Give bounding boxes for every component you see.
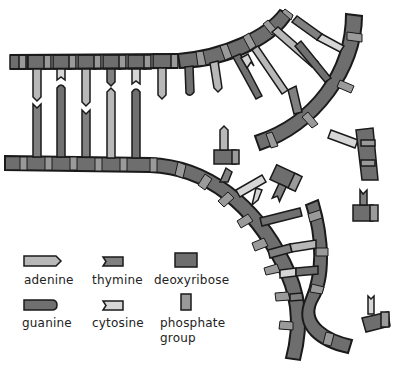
legend-guanine-icon [24, 300, 57, 310]
legend-adenine-icon [24, 256, 61, 266]
legend-label-phosphate-group: group [160, 332, 196, 345]
legend-label-deoxyribose: deoxyribose [154, 274, 229, 287]
base-pairs-duplex [33, 61, 222, 158]
legend-label-cytosine: cytosine [92, 317, 144, 330]
legend-label-adenine: adenine [24, 274, 74, 287]
upper-parental-strand [10, 54, 178, 69]
legend-label-guanine: guanine [22, 317, 72, 330]
legend-label-phosphate: phosphate [160, 317, 225, 330]
legend-cytosine-icon [103, 301, 123, 310]
lower-new-strand [302, 200, 352, 353]
legend-deoxyribose-icon [175, 253, 197, 267]
legend-label-thymine: thymine [92, 274, 143, 287]
legend-phosphate-icon [181, 294, 191, 310]
legend-thymine-icon [103, 257, 123, 266]
